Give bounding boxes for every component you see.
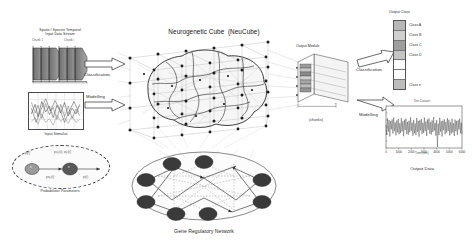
output-module-axis-label: (chunks) bbox=[309, 118, 323, 122]
prob-pj-label: pj(t) bbox=[25, 152, 30, 156]
modelling-arrow-left-label: Modelling bbox=[86, 94, 105, 99]
class-tick-label: Class n bbox=[409, 83, 421, 87]
class-cell[interactable] bbox=[394, 60, 405, 70]
class-tick-label: Class B bbox=[409, 33, 421, 37]
input-stimulus-plot bbox=[28, 92, 84, 130]
prob-pcji-wji-label: pcj,i(t), wj,i(t) bbox=[54, 151, 71, 155]
classification-arrow-right bbox=[356, 50, 396, 68]
prob-psji-label: psj,i(t) bbox=[46, 176, 54, 180]
output-module-label: Output Module bbox=[296, 44, 320, 48]
neuron-nj-label: n bbox=[30, 166, 32, 170]
chunk-axis-tick-left: 1 bbox=[297, 103, 299, 107]
output-chart-xlabel: Time (sec) bbox=[415, 152, 429, 156]
class-tick-label: Class C bbox=[409, 43, 422, 47]
gene-regulatory-network-label: Gene Regulatory Network bbox=[174, 228, 234, 234]
input-stream-title: Spatio / Spectro Temporal Input Data Str… bbox=[39, 28, 80, 37]
gene-regulatory-network-graphic bbox=[128, 150, 280, 228]
input-data-stream-graphic bbox=[30, 44, 90, 84]
modelling-arrow-right-label: Modelling bbox=[359, 112, 378, 117]
chunk-axis-tick-right: n bbox=[335, 103, 337, 107]
classification-arrow-right-label: Classification bbox=[356, 67, 382, 72]
chunk-last-label: Chunk i bbox=[64, 39, 74, 43]
chart-xtick-label: 4000 bbox=[433, 150, 440, 154]
class-cell[interactable] bbox=[394, 41, 405, 51]
chart-xtick-label: 1000 bbox=[395, 150, 402, 154]
neucube-graphic bbox=[118, 28, 308, 148]
class-cell[interactable] bbox=[394, 80, 405, 89]
diagram-canvas: Neurogenetic Cube (NeuCube) Spatio / Spe… bbox=[0, 0, 472, 246]
class-tick-label: Class A bbox=[409, 23, 421, 27]
chart-xtick-label: 2000 bbox=[408, 150, 415, 154]
output-class-bar[interactable] bbox=[393, 20, 406, 90]
output-module-graphic bbox=[296, 52, 352, 114]
input-stimulus-label: Input Stimulus bbox=[45, 132, 68, 136]
neuron-ni-label: n bbox=[68, 166, 70, 170]
output-data-chart: 0100020003000400050006000 bbox=[378, 104, 466, 166]
class-cell[interactable] bbox=[394, 21, 405, 31]
prob-pi-label: pi(t) bbox=[83, 176, 88, 180]
probabilistic-parameters-label: Probabilistic Parameters bbox=[40, 189, 79, 193]
chart-xtick-label: 0 bbox=[385, 150, 387, 154]
class-cell[interactable] bbox=[394, 51, 405, 61]
chart-xtick-label: 5000 bbox=[446, 150, 453, 154]
output-class-label: Output Class bbox=[389, 10, 410, 14]
classification-arrow-left-label: Classification bbox=[84, 72, 110, 77]
chart-xtick-label: 6000 bbox=[459, 150, 466, 154]
output-data-label: Output Data bbox=[410, 166, 434, 171]
class-tick-label: Class D bbox=[409, 53, 422, 57]
class-cell[interactable] bbox=[394, 70, 405, 80]
chunk-first-label: Chunk 1 bbox=[32, 39, 43, 43]
class-cell[interactable] bbox=[394, 31, 405, 41]
